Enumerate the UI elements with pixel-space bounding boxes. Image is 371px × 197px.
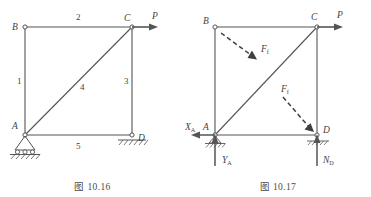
reaction-XA-label: XA [185,122,196,133]
reaction-XA-label-sub: A [191,126,196,133]
member-label-5: 5 [76,141,81,151]
pin-support-A [10,136,40,159]
figure-caption-10-16: 图 10.16 [0,179,185,193]
node-label-C: C [311,12,318,22]
pin-support-A-roller-mid [23,150,27,154]
member-label-4: 4 [80,82,85,92]
figure-10-17: B C A D P Ff Ff XA YA ND 图 10.17 [185,0,371,197]
friction-force-upper-label: Ff [260,44,270,55]
friction-force-lower-arrow [283,97,314,132]
reaction-ND-label-sub: D [329,159,334,166]
reaction-YA-label-sub: A [227,159,232,166]
friction-force-upper-shaft [221,33,251,55]
node-label-B: B [12,22,18,32]
reaction-YA-label: YA [222,155,232,166]
reaction-ND-label: ND [322,155,334,166]
friction-force-lower-shaft [283,97,309,127]
node-label-A: A [11,121,18,131]
member-label-3: 3 [124,76,129,86]
load-label-P: P [336,10,343,20]
node-label-D: D [137,133,145,143]
friction-force-upper-label-sub: f [267,48,270,55]
pin-support-A-roller-left [15,150,19,154]
member-label-1: 1 [17,76,22,86]
figure-caption-10-17: 图 10.17 [185,179,371,193]
friction-force-lower-label: Ff [280,84,290,95]
truss-members [25,27,132,135]
load-P-arrow [132,24,158,31]
node-label-C: C [124,13,131,23]
pin-support-A-hatching [11,155,40,160]
node-label-B: B [203,16,209,26]
friction-force-upper-head [248,51,258,60]
reaction-ND-arrow [314,134,321,166]
member-label-2: 2 [76,12,81,22]
load-P-head [149,24,158,31]
member-4-AC-line [25,27,132,135]
truss-diagram-10-16: B C A D 1 2 3 4 5 P [0,0,185,170]
friction-force-upper-arrow [221,33,257,60]
joint-B-marker [213,25,217,29]
load-label-P: P [151,11,158,21]
free-body-diagram-10-17: B C A D P Ff Ff XA YA ND [185,0,371,170]
pin-support-A-roller-right [30,150,34,154]
node-label-A: A [202,122,209,132]
figure-10-16: B C A D 1 2 3 4 5 P 图 10.16 [0,0,185,197]
load-P-head [334,24,343,31]
figure-pair-container: B C A D 1 2 3 4 5 P 图 10.16 [0,0,371,197]
pin-support-A-triangle [15,136,35,150]
joint-B-marker [23,25,27,29]
node-label-D: D [322,125,330,135]
friction-force-lower-label-sub: f [287,88,290,95]
load-P-arrow [317,24,343,31]
friction-force-lower-head [305,123,315,132]
joint-D-marker [130,133,134,137]
